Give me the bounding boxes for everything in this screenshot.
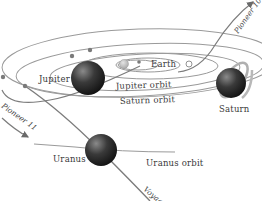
saturn: Saturn [215,58,253,114]
trajectory-diagram: Earth Jupiter Saturn Uranus Jupiter orbi… [0,0,262,201]
uranus-orbit-label: Uranus orbit [146,158,204,168]
jupiter-planet [71,61,105,95]
saturn-label: Saturn [219,104,250,114]
earth-label: Earth [151,59,177,69]
uranus-planet [85,134,117,166]
uranus-label: Uranus [53,154,86,164]
saturn-orbit-label: Saturn orbit [120,94,176,106]
voyager-label: Voyager [142,185,172,201]
earth-planet [120,60,129,69]
saturn-planet [216,68,246,98]
pioneer-11-label: Pioneer 11 [0,101,39,133]
jupiter: Jupiter [38,61,105,95]
jupiter-label: Jupiter [38,74,71,84]
jupiter-orbit-label: Jupiter orbit [115,79,172,91]
diagram-svg: Earth Jupiter Saturn Uranus Jupiter orbi… [0,0,262,201]
uranus: Uranus [53,134,117,166]
